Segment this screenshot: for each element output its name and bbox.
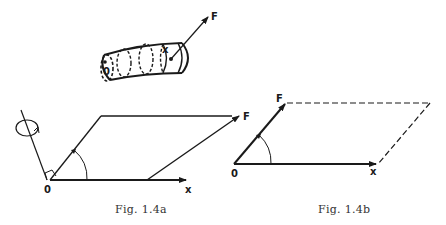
angle-arc xyxy=(74,150,87,180)
curved-tube xyxy=(101,43,188,81)
fig-a-origin-label: 0 xyxy=(44,184,51,195)
tube-force-label: F xyxy=(211,11,218,22)
tube-origin-dot xyxy=(103,60,107,64)
fig-b-x-label: x xyxy=(370,166,377,177)
tube-point-label: x xyxy=(162,44,169,55)
tube-force-arrow xyxy=(171,17,208,59)
diagram-canvas: 0 x F 0 x F Fig. 1.4a 0 x F Fig. 1.4b xyxy=(0,0,446,225)
tube-cross-section-1 xyxy=(117,49,131,77)
tube-cross-section-2 xyxy=(139,44,153,74)
tube-origin-label: 0 xyxy=(103,66,110,77)
fig-b-origin-label: 0 xyxy=(231,168,238,179)
dashed-right-edge xyxy=(378,103,430,164)
fig-a-x-label: x xyxy=(185,184,192,195)
angle-arc xyxy=(259,135,271,164)
figure-b-parallelogram xyxy=(234,103,430,164)
force-vector xyxy=(234,104,285,164)
figure-a-parallelogram xyxy=(16,110,239,180)
left-edge xyxy=(50,116,101,180)
fig-b-force-label: F xyxy=(276,93,283,104)
force-vector xyxy=(147,116,239,180)
rotation-ellipse-icon xyxy=(16,120,38,136)
fig-a-caption: Fig. 1.4a xyxy=(115,203,167,216)
fig-a-force-label: F xyxy=(243,111,250,122)
fig-b-caption: Fig. 1.4b xyxy=(318,203,370,216)
tube-right-cap xyxy=(182,43,188,73)
